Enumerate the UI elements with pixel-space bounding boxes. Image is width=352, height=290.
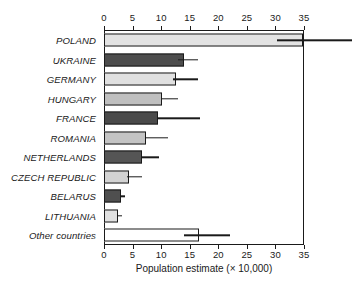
bar xyxy=(104,131,146,144)
bar-row: POLAND xyxy=(0,31,352,51)
category-label: BELARUS xyxy=(51,191,97,202)
bottom-tick-label-35: 35 xyxy=(299,249,310,260)
bar-row: BELARUS xyxy=(0,187,352,207)
bar-row: CZECH REPUBLIC xyxy=(0,167,352,187)
error-bar xyxy=(277,40,352,41)
error-bar xyxy=(184,235,230,236)
error-bar xyxy=(141,157,159,158)
top-tick-label-0: 0 xyxy=(101,12,106,23)
top-tick-30 xyxy=(275,26,276,30)
error-bar xyxy=(145,137,168,138)
category-label: POLAND xyxy=(56,35,96,46)
bar-row: FRANCE xyxy=(0,109,352,129)
bar xyxy=(104,112,158,125)
top-tick-label-20: 20 xyxy=(213,12,224,23)
category-label: NETHERLANDS xyxy=(23,152,96,163)
top-tick-5 xyxy=(133,26,134,30)
category-label: UKRAINE xyxy=(53,54,96,65)
bar-row: NETHERLANDS xyxy=(0,148,352,168)
bottom-tick-label-30: 30 xyxy=(270,249,281,260)
bottom-tick-label-5: 5 xyxy=(130,249,135,260)
top-tick-10 xyxy=(161,26,162,30)
bar xyxy=(104,170,129,183)
bar-row: LITHUANIA xyxy=(0,206,352,226)
bar xyxy=(104,34,303,47)
x-axis-title: Population estimate (× 10,000) xyxy=(104,263,304,274)
bottom-tick-label-0: 0 xyxy=(101,249,106,260)
error-bar xyxy=(117,215,122,216)
top-tick-label-35: 35 xyxy=(299,12,310,23)
category-label: ROMANIA xyxy=(51,132,96,143)
bar xyxy=(104,53,184,66)
category-label: FRANCE xyxy=(56,113,96,124)
error-bar xyxy=(120,196,125,197)
error-bar xyxy=(127,176,142,177)
error-bar xyxy=(161,98,178,99)
bottom-tick-label-10: 10 xyxy=(156,249,167,260)
category-label: HUNGARY xyxy=(48,93,96,104)
bar-row: HUNGARY xyxy=(0,89,352,109)
error-bar xyxy=(157,118,200,119)
category-label: Other countries xyxy=(29,230,96,241)
top-tick-25 xyxy=(247,26,248,30)
bar-row: UKRAINE xyxy=(0,50,352,70)
bottom-tick-label-15: 15 xyxy=(184,249,195,260)
top-tick-label-10: 10 xyxy=(156,12,167,23)
error-bar xyxy=(173,79,199,80)
population-estimate-bar-chart: 05101520253035 05101520253035 POLANDUKRA… xyxy=(0,0,352,290)
top-tick-label-15: 15 xyxy=(184,12,195,23)
top-tick-15 xyxy=(190,26,191,30)
bottom-tick-label-20: 20 xyxy=(213,249,224,260)
category-label: LITHUANIA xyxy=(45,210,96,221)
top-tick-20 xyxy=(218,26,219,30)
category-label: CZECH REPUBLIC xyxy=(11,171,96,182)
top-tick-0 xyxy=(104,26,105,30)
error-bar xyxy=(178,59,198,60)
bottom-tick-label-25: 25 xyxy=(241,249,252,260)
bar xyxy=(104,190,121,203)
top-tick-label-30: 30 xyxy=(270,12,281,23)
bar xyxy=(104,92,162,105)
top-tick-35 xyxy=(304,26,305,30)
bar xyxy=(104,73,176,86)
bar xyxy=(104,151,142,164)
top-tick-label-25: 25 xyxy=(241,12,252,23)
bar-row: Other countries xyxy=(0,226,352,246)
bar-row: GERMANY xyxy=(0,70,352,90)
top-tick-label-5: 5 xyxy=(130,12,135,23)
bar-row: ROMANIA xyxy=(0,128,352,148)
category-label: GERMANY xyxy=(47,74,96,85)
